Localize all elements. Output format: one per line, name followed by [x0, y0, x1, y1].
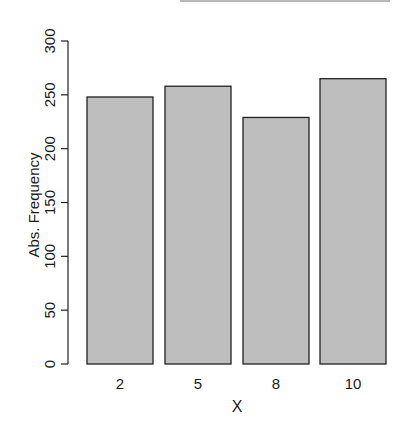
- x-axis-label: X: [232, 398, 243, 415]
- x-tick-labels: 25810: [116, 375, 362, 392]
- y-tick-label: 50: [41, 302, 58, 319]
- bar-2: [87, 97, 153, 364]
- y-tick-label: 250: [41, 82, 58, 107]
- y-axis-label: Abs. Frequency: [25, 152, 42, 258]
- x-tick-label: 5: [194, 375, 202, 392]
- y-tick-label: 150: [41, 190, 58, 215]
- y-tick-label: 0: [41, 360, 58, 368]
- x-tick-label: 2: [116, 375, 124, 392]
- x-tick-label: 8: [272, 375, 280, 392]
- y-tick-label: 300: [41, 28, 58, 53]
- bar-10: [320, 79, 386, 364]
- bar-8: [243, 117, 309, 364]
- bar-chart: 050100150200250300 25810 X Abs. Frequenc…: [0, 0, 407, 439]
- bars: [87, 79, 386, 364]
- x-tick-label: 10: [345, 375, 362, 392]
- y-tick-label: 200: [41, 136, 58, 161]
- y-axis: 050100150200250300: [41, 28, 68, 368]
- y-tick-label: 100: [41, 244, 58, 269]
- bar-5: [165, 86, 231, 364]
